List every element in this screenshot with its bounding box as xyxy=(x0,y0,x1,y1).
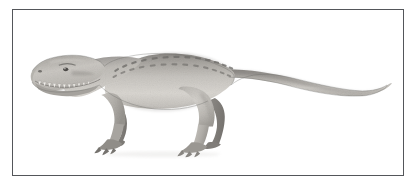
dinosaur-figure xyxy=(13,10,403,175)
illustration-plate-root: Theropod dinosaur lateral view illustrat… xyxy=(0,0,416,186)
eye-icon xyxy=(63,67,68,71)
nostril-icon xyxy=(38,70,42,72)
eye-highlight xyxy=(64,68,66,69)
ground-shadow xyxy=(105,151,220,157)
plate-frame-border: Theropod dinosaur lateral view illustrat… xyxy=(12,9,404,176)
plate-canvas: Theropod dinosaur lateral view illustrat… xyxy=(13,10,403,175)
